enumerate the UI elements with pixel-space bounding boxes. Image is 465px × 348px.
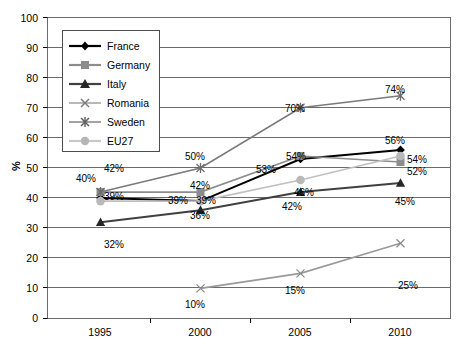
data-label: 54% — [407, 155, 427, 165]
data-label: 52% — [407, 167, 427, 177]
legend-label-sweden: Sweden — [107, 116, 145, 128]
series-line-france — [101, 150, 401, 201]
circle-marker-icon — [68, 134, 102, 148]
data-label: 36% — [190, 211, 210, 221]
square-marker-icon — [68, 58, 102, 72]
legend: France Germany Italy Romania — [62, 30, 160, 152]
data-label: 32% — [104, 240, 124, 250]
legend-item-france[interactable]: France — [63, 36, 159, 55]
x-axis-ticks — [151, 319, 351, 324]
data-point-eu27 — [296, 176, 305, 185]
series-line-italy — [101, 183, 401, 222]
data-point-romania — [397, 239, 405, 247]
series-line-eu27 — [101, 156, 401, 201]
x-marker-icon — [68, 96, 102, 110]
data-label: 40% — [76, 174, 96, 184]
data-label: 15% — [285, 286, 305, 296]
legend-item-sweden[interactable]: Sweden — [63, 112, 159, 131]
legend-label-romania: Romania — [107, 97, 149, 109]
data-label: 39% — [196, 196, 216, 206]
legend-item-eu27[interactable]: EU27 — [63, 131, 159, 150]
legend-label-france: France — [107, 40, 140, 52]
data-label: 42% — [190, 181, 210, 191]
data-label: 50% — [185, 152, 205, 162]
data-label: 25% — [398, 281, 418, 291]
y-axis-ticks — [43, 18, 48, 319]
triangle-marker-icon — [68, 77, 102, 91]
data-label: 56% — [385, 136, 405, 146]
data-label: 74% — [385, 85, 405, 95]
data-label: 42% — [282, 202, 302, 212]
data-point-eu27 — [396, 152, 405, 161]
data-label: 39% — [104, 192, 124, 202]
data-label: 39% — [168, 196, 188, 206]
data-label: 45% — [395, 197, 415, 207]
series-line-romania — [201, 243, 401, 288]
legend-item-germany[interactable]: Germany — [63, 55, 159, 74]
data-label: 46% — [294, 188, 314, 198]
data-label: 53% — [256, 165, 276, 175]
legend-label-germany: Germany — [107, 59, 150, 71]
legend-item-italy[interactable]: Italy — [63, 74, 159, 93]
legend-label-italy: Italy — [107, 78, 126, 90]
asterisk-marker-icon — [68, 115, 102, 129]
data-label: 70% — [285, 104, 305, 114]
legend-item-romania[interactable]: Romania — [63, 93, 159, 112]
diamond-marker-icon — [68, 39, 102, 53]
data-label: 42% — [104, 164, 124, 174]
data-label: 10% — [185, 300, 205, 310]
legend-label-eu27: EU27 — [107, 135, 133, 147]
data-label: 54% — [286, 152, 306, 162]
line-chart: % 100 90 80 70 60 50 40 30 20 10 0 1995 … — [0, 0, 465, 348]
